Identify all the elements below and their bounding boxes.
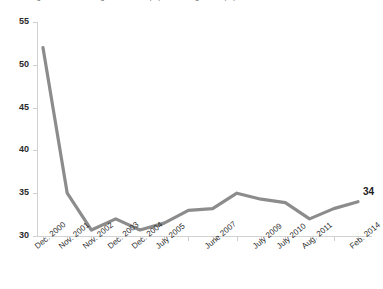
y-axis-tick-label: 40 xyxy=(19,144,29,155)
series-line xyxy=(37,18,372,237)
y-axis-tick-label: 35 xyxy=(19,187,29,198)
chart-title: Percentage of adults reading books, news… xyxy=(6,0,376,3)
y-axis-tick-label: 50 xyxy=(19,59,29,70)
y-axis-tick-label: 55 xyxy=(19,16,29,27)
y-axis-tick-label: 45 xyxy=(19,102,29,113)
y-axis-tick-label: 30 xyxy=(19,230,29,241)
plot-area: 555045403530 34 xyxy=(37,18,372,237)
end-value-label: 34 xyxy=(363,186,374,197)
